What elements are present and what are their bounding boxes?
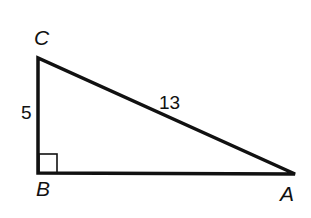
vertex-label-b: B (36, 177, 50, 200)
triangle-abc (38, 58, 295, 174)
side-label-ca: 13 (159, 92, 180, 113)
side-label-bc: 5 (21, 102, 32, 123)
vertex-label-a: A (278, 182, 294, 205)
vertex-label-c: C (34, 26, 50, 49)
right-angle-marker (39, 154, 57, 173)
triangle-diagram: C B A 5 13 (0, 0, 311, 218)
